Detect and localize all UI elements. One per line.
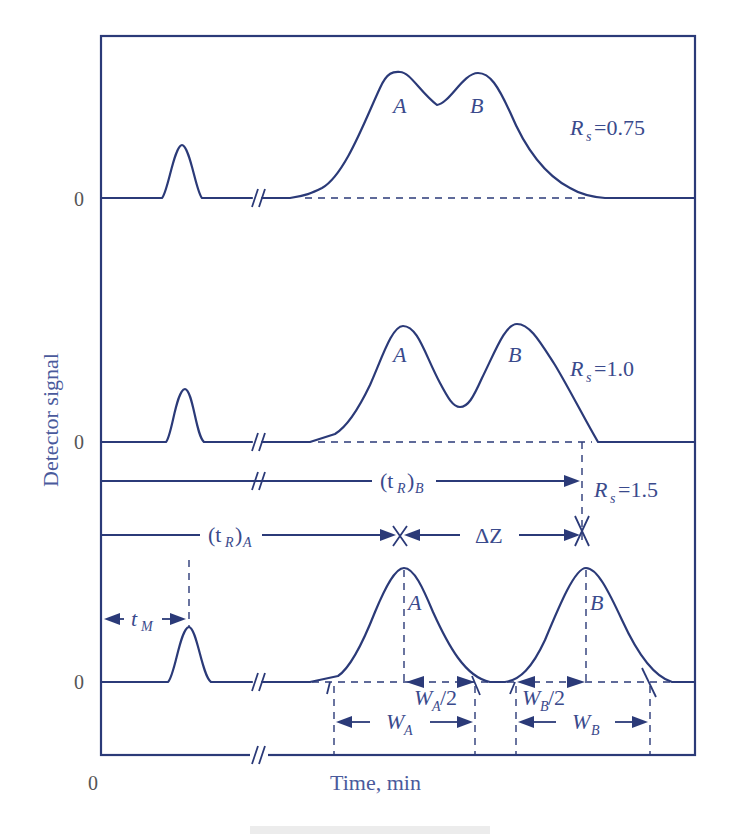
svg-text:M: M bbox=[140, 619, 154, 634]
tangent-a-left bbox=[327, 682, 330, 694]
middle-peak-b-label: B bbox=[508, 342, 521, 367]
svg-text:R: R bbox=[396, 481, 406, 496]
svg-text:R: R bbox=[569, 115, 584, 140]
svg-text:B: B bbox=[591, 723, 600, 738]
top-peak-a-label: A bbox=[391, 93, 407, 118]
svg-text:): ) bbox=[407, 468, 414, 493]
wa-right-arrow-icon bbox=[457, 716, 473, 728]
bottom-baseline-separated-peaks bbox=[262, 568, 695, 682]
top-peak-b-label: B bbox=[470, 93, 483, 118]
svg-text:B: B bbox=[415, 481, 424, 496]
svg-text:A: A bbox=[403, 723, 413, 738]
panel-top: A B R s =0.75 0 bbox=[74, 72, 695, 210]
wb-left-arrow-icon bbox=[518, 716, 534, 728]
svg-text:R: R bbox=[593, 477, 608, 502]
svg-text:=1.0: =1.0 bbox=[594, 356, 634, 381]
t-m-left-arrow-icon bbox=[104, 613, 120, 625]
svg-text:s: s bbox=[586, 370, 592, 385]
svg-text:(t: (t bbox=[380, 468, 393, 493]
svg-text:): ) bbox=[235, 522, 242, 547]
panel-bottom: t M A B 0 W A /2 W B bbox=[74, 560, 695, 755]
t-m-right-arrow-icon bbox=[170, 613, 186, 625]
tr-b-arrow-icon bbox=[564, 475, 580, 487]
tr-a-arrow-icon bbox=[380, 529, 396, 541]
svg-text:s: s bbox=[610, 491, 616, 506]
tr-a-label: (t R ) A bbox=[208, 522, 252, 550]
peak-a-cross-marker-icon bbox=[393, 526, 407, 546]
svg-text:/2: /2 bbox=[440, 685, 457, 710]
svg-text:(t: (t bbox=[208, 522, 221, 547]
tangent-b-left bbox=[510, 682, 515, 694]
middle-resolution-label: R s =1.0 bbox=[569, 356, 634, 385]
top-dead-time-peak bbox=[101, 145, 252, 198]
svg-text:W: W bbox=[572, 709, 592, 734]
bottom-peak-a-label: A bbox=[406, 590, 422, 615]
top-baseline-zero: 0 bbox=[74, 188, 84, 210]
wb-dimension: W B bbox=[518, 709, 648, 738]
bottom-baseline-zero: 0 bbox=[74, 671, 84, 693]
svg-text:R: R bbox=[224, 535, 234, 550]
svg-text:A: A bbox=[242, 535, 252, 550]
bottom-peak-b-label: B bbox=[590, 590, 603, 615]
chromatogram-resolution-diagram: A B R s =0.75 0 A B R s =1.0 0 (t R ) bbox=[0, 0, 737, 834]
panel-middle: A B R s =1.0 0 bbox=[74, 324, 695, 453]
svg-text:s: s bbox=[586, 129, 592, 144]
bottom-resolution-label: R s =1.5 bbox=[593, 477, 658, 506]
wb-half-right-arrow-icon bbox=[567, 676, 585, 688]
middle-baseline-zero: 0 bbox=[74, 431, 84, 453]
wb-right-arrow-icon bbox=[632, 716, 648, 728]
t-m-dimension: t M bbox=[104, 606, 186, 634]
svg-text:=0.75: =0.75 bbox=[594, 115, 645, 140]
tr-b-label: (t R ) B bbox=[380, 468, 424, 496]
svg-text:W: W bbox=[522, 685, 542, 710]
y-axis-label: Detector signal bbox=[38, 353, 63, 487]
delta-z-label: ΔZ bbox=[475, 523, 503, 548]
svg-text:W: W bbox=[386, 709, 406, 734]
figure-caption-obscured bbox=[250, 826, 490, 834]
retention-time-a-dimension: (t R ) A bbox=[101, 522, 407, 550]
x-axis-label: Time, min bbox=[330, 770, 421, 795]
svg-text:/2: /2 bbox=[548, 685, 565, 710]
middle-resolved-peaks bbox=[262, 324, 695, 442]
top-resolution-label: R s =0.75 bbox=[569, 115, 645, 144]
retention-time-b-dimension: (t R ) B bbox=[101, 468, 580, 496]
svg-text:=1.5: =1.5 bbox=[618, 477, 658, 502]
svg-text:W: W bbox=[414, 685, 434, 710]
origin-label: 0 bbox=[88, 772, 98, 794]
wa-dimension: W A bbox=[336, 709, 473, 738]
wa-half-dimension: W A /2 bbox=[406, 676, 475, 714]
svg-text:t: t bbox=[131, 606, 138, 631]
delta-z-dimension: ΔZ bbox=[404, 516, 589, 548]
middle-dead-time-peak bbox=[101, 389, 252, 442]
wa-left-arrow-icon bbox=[336, 716, 352, 728]
middle-peak-a-label: A bbox=[391, 342, 407, 367]
delta-z-left-arrow-icon bbox=[404, 529, 420, 541]
svg-text:R: R bbox=[569, 356, 584, 381]
bottom-dead-time-peak bbox=[101, 627, 252, 682]
